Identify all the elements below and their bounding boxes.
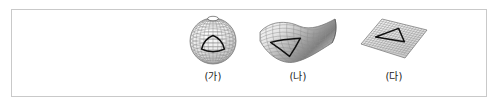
saddle-surface-icon [256, 13, 340, 67]
saddle-surface-holder [256, 10, 340, 70]
figure-root: (가) [0, 0, 500, 109]
panel-plane: (다) [358, 10, 430, 83]
plane-surface-icon [358, 13, 430, 67]
plane-surface-holder [358, 10, 430, 70]
surface-panel-row: (가) [12, 10, 488, 98]
panel-label-saddle: (나) [290, 71, 307, 83]
panel-label-plane: (다) [386, 71, 403, 83]
figure-border-box: (가) [11, 9, 487, 97]
panel-saddle: (나) [256, 10, 340, 83]
panel-label-sphere: (가) [205, 71, 222, 83]
panel-sphere: (가) [188, 10, 238, 83]
sphere-surface-holder [188, 10, 238, 70]
sphere-surface-icon [188, 13, 238, 67]
